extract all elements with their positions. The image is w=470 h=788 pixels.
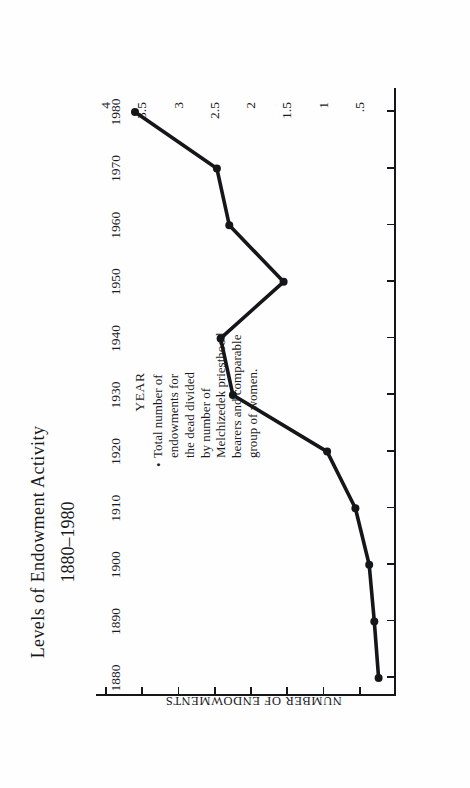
x-tick-label: 1880 xyxy=(108,665,124,692)
y-tick-label: 2 xyxy=(243,102,259,109)
data-point-marker xyxy=(365,561,373,569)
x-tick xyxy=(387,450,396,452)
data-point-marker xyxy=(351,504,359,512)
title-block: Levels of Endowment Activity 1880–1980 xyxy=(28,392,79,692)
x-tick xyxy=(387,110,396,112)
x-tick-label: 1970 xyxy=(108,155,124,182)
y-tick-label: 1 xyxy=(316,102,332,109)
figure-page: Levels of Endowment Activity 1880–1980 •… xyxy=(0,0,470,788)
data-point-marker xyxy=(280,278,288,286)
y-tick-label: 4 xyxy=(98,102,114,109)
x-axis-line xyxy=(394,88,396,696)
data-point-marker xyxy=(370,617,378,625)
x-tick-label: 1940 xyxy=(108,325,124,352)
y-tick xyxy=(105,687,107,696)
x-tick xyxy=(387,620,396,622)
x-tick-label: 1950 xyxy=(108,268,124,295)
x-tick xyxy=(387,224,396,226)
data-point-marker xyxy=(213,165,221,173)
y-tick-label: 2.5 xyxy=(207,102,223,119)
x-tick-label: 1900 xyxy=(108,551,124,578)
data-point-marker xyxy=(229,391,237,399)
x-tick xyxy=(387,393,396,395)
x-tick-label: 1960 xyxy=(108,212,124,239)
data-point-marker xyxy=(375,674,383,682)
data-point-marker xyxy=(225,221,233,229)
x-tick xyxy=(387,280,396,282)
x-tick-label: 1930 xyxy=(108,382,124,409)
x-tick xyxy=(387,507,396,509)
plot-area: 1880189019001910192019301940195019601970… xyxy=(96,88,396,696)
rotated-figure: Levels of Endowment Activity 1880–1980 •… xyxy=(0,0,470,788)
page-subtitle: 1880–1980 xyxy=(58,392,79,692)
page-title: Levels of Endowment Activity xyxy=(28,392,49,692)
x-tick-label: 1890 xyxy=(108,608,124,635)
data-point-marker xyxy=(217,334,225,342)
x-tick xyxy=(387,563,396,565)
x-tick xyxy=(387,676,396,678)
y-tick-label: 3 xyxy=(171,102,187,109)
data-point-marker xyxy=(323,448,331,456)
y-axis-title: NUMBER OF ENDOWMENTS xyxy=(134,693,374,708)
x-tick xyxy=(387,167,396,169)
x-tick xyxy=(387,337,396,339)
series-polyline xyxy=(135,112,379,678)
x-axis-title: YEAR xyxy=(132,88,148,696)
x-tick-label: 1920 xyxy=(108,438,124,465)
y-tick-label: 1.5 xyxy=(279,102,295,119)
x-tick-label: 1910 xyxy=(108,495,124,522)
y-tick-label: .5 xyxy=(352,102,368,112)
